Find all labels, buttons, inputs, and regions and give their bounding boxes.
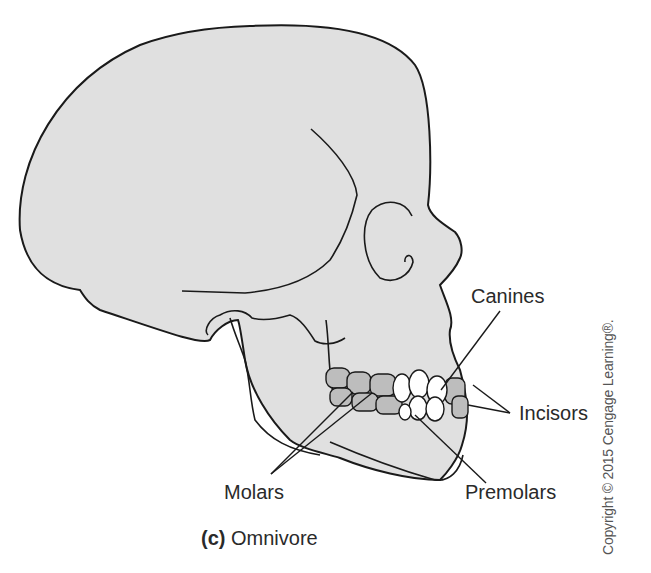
label-incisors: Incisors xyxy=(519,402,588,425)
copyright-notice: Copyright © 2015 Cengage Learning®. xyxy=(600,320,616,555)
label-premolars: Premolars xyxy=(465,481,556,504)
label-molars: Molars xyxy=(224,481,284,504)
figure-caption: (c) Omnivore xyxy=(201,527,318,550)
front-teeth xyxy=(393,370,447,421)
caption-text: Omnivore xyxy=(231,527,318,549)
caption-letter: (c) xyxy=(201,527,225,549)
label-canines: Canines xyxy=(471,285,544,308)
